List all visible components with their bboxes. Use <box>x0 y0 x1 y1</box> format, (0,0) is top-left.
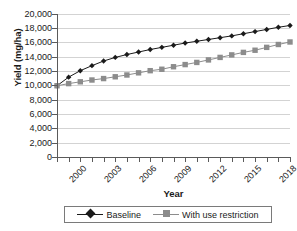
diamond-marker-icon <box>159 44 164 49</box>
square-marker-icon <box>171 64 176 69</box>
square-marker-icon <box>124 72 129 77</box>
diamond-marker-icon <box>264 26 269 31</box>
x-tick-label: 2015 <box>243 164 264 185</box>
diamond-marker-icon <box>252 28 257 33</box>
diamond-marker-icon <box>171 42 176 47</box>
square-marker-icon <box>194 59 199 64</box>
square-marker-icon <box>229 52 234 57</box>
y-tick-label: 20,000 <box>14 10 52 19</box>
legend-marker-square-icon <box>153 210 179 219</box>
series-line <box>57 25 290 85</box>
diamond-marker-icon <box>194 38 199 43</box>
legend-item-baseline[interactable]: Baseline <box>77 210 141 220</box>
square-marker-icon <box>148 67 153 72</box>
square-marker-icon <box>89 77 94 82</box>
x-tick-label: 2000 <box>68 164 89 185</box>
legend-label-with-use-restriction: With use restriction <box>182 210 259 220</box>
y-tick-label: 18,000 <box>14 24 52 33</box>
series-plot <box>57 14 290 158</box>
diamond-marker-icon <box>217 34 222 39</box>
yield-projection-line-chart: Yield (mg/ha) 20,00018,00016,00014,00012… <box>0 0 297 231</box>
y-tick-label: 16,000 <box>14 38 52 47</box>
square-marker-icon <box>78 79 83 84</box>
y-axis-line <box>57 14 58 158</box>
y-tick-label: 10,000 <box>14 81 52 90</box>
diamond-marker-icon <box>78 67 83 72</box>
x-tick-label: 2009 <box>173 164 194 185</box>
square-marker-icon <box>264 44 269 49</box>
diamond-marker-icon <box>182 40 187 45</box>
diamond-marker-icon <box>101 58 106 63</box>
x-axis-tick-labels: 2000200320062009201220152018 <box>0 162 297 190</box>
y-tick-label: 14,000 <box>14 53 52 62</box>
square-marker-icon <box>113 74 118 79</box>
legend-item-with-use-restriction[interactable]: With use restriction <box>153 210 259 220</box>
diamond-marker-icon <box>276 24 281 29</box>
y-tick-label: 6,000 <box>14 110 52 119</box>
diamond-marker-icon <box>206 36 211 41</box>
y-tick-label: 4,000 <box>14 124 52 133</box>
x-axis-line <box>57 157 291 158</box>
diamond-marker-icon <box>241 31 246 36</box>
square-marker-icon <box>276 41 281 46</box>
x-tick-label: 2018 <box>278 164 297 185</box>
y-tick-label: 12,000 <box>14 67 52 76</box>
square-marker-icon <box>252 47 257 52</box>
square-marker-icon <box>136 70 141 75</box>
diamond-marker-icon <box>86 208 96 218</box>
y-axis-tick-labels: 20,00018,00016,00014,00012,00010,0008,00… <box>14 9 52 159</box>
square-marker-icon <box>182 61 187 66</box>
diamond-marker-icon <box>148 46 153 51</box>
plot-area <box>57 14 290 158</box>
square-marker-icon <box>101 75 106 80</box>
square-marker-icon <box>66 80 71 85</box>
legend-label-baseline: Baseline <box>106 210 141 220</box>
square-marker-icon <box>163 210 170 217</box>
square-marker-icon <box>217 54 222 59</box>
legend-marker-diamond-icon <box>77 210 103 219</box>
x-axis-title: Year <box>57 188 290 199</box>
diamond-marker-icon <box>113 54 118 59</box>
diamond-marker-icon <box>287 22 292 27</box>
x-tick-label: 2003 <box>103 164 124 185</box>
diamond-marker-icon <box>136 49 141 54</box>
square-marker-icon <box>159 66 164 71</box>
square-marker-icon <box>287 39 292 44</box>
y-tick-label: 0 <box>14 153 52 162</box>
square-marker-icon <box>241 49 246 54</box>
chart-legend: Baseline With use restriction <box>64 206 272 223</box>
diamond-marker-icon <box>89 62 94 67</box>
y-tick-label: 2,000 <box>14 139 52 148</box>
y-tick-label: 8,000 <box>14 96 52 105</box>
x-tick-label: 2012 <box>208 164 229 185</box>
diamond-marker-icon <box>229 33 234 38</box>
square-marker-icon <box>206 57 211 62</box>
x-tick-label: 2006 <box>138 164 159 185</box>
diamond-marker-icon <box>124 51 129 56</box>
